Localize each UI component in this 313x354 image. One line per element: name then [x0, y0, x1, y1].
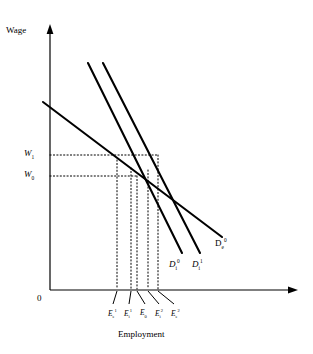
x-tick-sup-ee2: 2 [178, 308, 180, 313]
y-tick-base-w0: W [24, 169, 32, 179]
x-tick-sub-ei2: i [160, 314, 161, 319]
x-axis-title: Employment [118, 330, 165, 339]
x-tick-label-ei2: Ei2 [155, 309, 163, 320]
x-tick-sup-ei2: 2 [161, 308, 163, 313]
tick-connector-ei1 [129, 291, 131, 304]
y-axis-arrowhead [47, 24, 54, 34]
tick-connector-ee2 [158, 291, 174, 304]
x-tick-label-ee1: Ee1 [108, 309, 117, 320]
curve-label-sup-Di0: 0 [177, 258, 180, 264]
curve-label-sub-Di0: i [176, 265, 178, 271]
curve-label-sup-Di1: 1 [200, 258, 203, 264]
y-tick-label-w1: W1 [24, 149, 34, 160]
demand-curve-Di0 [88, 63, 182, 253]
curve-label-Di1: Di1 [192, 259, 203, 271]
curve-label-De0: De0 [215, 238, 227, 250]
curve-label-sub-Di1: i [199, 265, 201, 271]
x-tick-sub-ee2: e [176, 314, 178, 319]
x-tick-label-ei1: Ei1 [124, 309, 132, 320]
x-axis-arrowhead [288, 287, 298, 294]
chart-canvas: Wage Employment 0 W1 W0 Ee1 Ei1 E0 Ei2 E… [0, 0, 313, 354]
curve-label-sup-De0: 0 [224, 237, 227, 243]
x-tick-sub-ei1: i [129, 314, 130, 319]
x-tick-label-e0: E0 [140, 309, 147, 319]
tick-connector-ei2 [148, 291, 159, 304]
y-tick-base-w1: W [24, 148, 32, 158]
curve-label-Di0: Di0 [169, 259, 180, 271]
x-tick-sub-ee1: e [113, 314, 115, 319]
x-tick-label-ee2: Ee2 [171, 309, 180, 320]
curve-label-sub-De0: e [222, 244, 224, 250]
y-axis-title: Wage [6, 26, 26, 35]
y-tick-label-w0: W0 [24, 170, 34, 181]
diagram-svg [0, 0, 313, 354]
origin-label: 0 [37, 294, 42, 303]
x-tick-sup-ee1: 1 [115, 308, 117, 313]
x-tick-sup-ei1: 1 [130, 308, 132, 313]
y-tick-sub-w0: 0 [32, 175, 35, 181]
x-tick-sub-e0: 0 [145, 314, 147, 319]
tick-connector-e0 [137, 291, 145, 304]
y-tick-sub-w1: 1 [32, 154, 35, 160]
tick-connector-ee1 [113, 291, 117, 304]
